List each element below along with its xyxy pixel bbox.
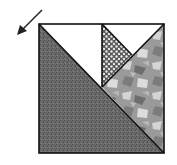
quilt-block-diagram [0, 0, 177, 165]
